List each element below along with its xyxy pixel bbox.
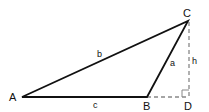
side-label-b: b (97, 49, 102, 59)
triangle-abc (22, 21, 188, 97)
vertex-label-c: C (183, 7, 191, 19)
altitude-label-h: h (192, 56, 197, 66)
vertex-label-b: B (143, 100, 150, 112)
side-label-c: c (93, 100, 98, 110)
right-angle-marker (182, 90, 189, 97)
side-label-a: a (170, 58, 175, 68)
triangle-diagram: A B C D b a c h (0, 0, 209, 112)
vertex-label-a: A (9, 91, 17, 103)
vertex-label-d: D (184, 100, 192, 112)
